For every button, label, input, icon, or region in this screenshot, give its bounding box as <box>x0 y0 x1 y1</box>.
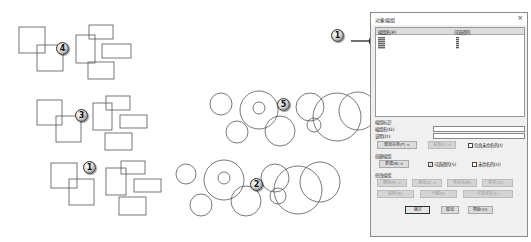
description-button[interactable]: 说明(D) <box>377 190 414 198</box>
callout-number-3: 3 <box>75 109 88 122</box>
selectable-label: 可选择的(S) <box>434 162 456 167</box>
close-icon[interactable]: × <box>517 14 523 22</box>
include-unnamed-checkbox[interactable]: 包含未命名的(I) <box>468 142 503 148</box>
group-name-entries[interactable] <box>378 37 385 49</box>
new-group-button[interactable]: 新建(N) < <box>379 160 409 168</box>
description-label: 说明(D): <box>375 133 392 139</box>
dialog-title: 对象编组 <box>375 16 395 23</box>
callout-number-5: 5 <box>277 98 290 111</box>
checkbox-checked[interactable]: ✓ <box>428 162 433 167</box>
group-name-field[interactable] <box>433 126 525 132</box>
description-field[interactable] <box>433 133 525 139</box>
selectable-toggle-button[interactable]: 可选择的(L) <box>463 190 513 198</box>
rename-button[interactable]: 重命名(M) <box>447 179 477 187</box>
section-create-group: 创建编组 <box>375 153 391 159</box>
object-grouping-dialog: 对象编组 × 编组名(P) 可选择的 编组标识 编组名(G): 说明(D): 查… <box>370 12 528 237</box>
checkbox-box[interactable] <box>472 162 477 167</box>
selectable-checkbox[interactable]: ✓可选择的(S) <box>428 161 456 167</box>
group-list[interactable]: 编组名(P) 可选择的 <box>375 27 525 117</box>
explode-button[interactable]: 分解(E) <box>420 190 457 198</box>
callout-number-1: 1 <box>83 161 96 174</box>
unnamed-checkbox[interactable]: 未命名的(U) <box>472 161 501 167</box>
column-group-name[interactable]: 编组名(P) <box>378 29 396 35</box>
dialog-titlebar: 对象编组 × <box>371 13 527 25</box>
column-selectable[interactable]: 可选择的 <box>454 29 470 35</box>
cancel-button[interactable]: 取消 <box>441 206 459 214</box>
reorder-button[interactable]: 重排(O)... <box>482 179 513 187</box>
add-button[interactable]: 添加(A) < <box>412 179 442 187</box>
section-group-identification: 编组标识 <box>375 119 391 125</box>
callout-number-2: 2 <box>250 178 263 191</box>
selectable-entries <box>456 37 459 49</box>
checkbox-box[interactable] <box>468 143 473 148</box>
group-name-label: 编组名(G): <box>375 126 396 132</box>
highlight-button[interactable]: 亮显(H) < <box>428 141 456 149</box>
callout-number-1: 1 <box>331 29 344 42</box>
unnamed-label: 未命名的(U) <box>478 162 501 167</box>
remove-button[interactable]: 删除(R) < <box>377 179 407 187</box>
include-unnamed-label: 包含未命名的(I) <box>474 143 503 148</box>
section-change-group: 修改编组 <box>375 172 391 178</box>
help-button[interactable]: 帮助(H) <box>468 206 493 214</box>
callout-number-4: 4 <box>56 42 69 55</box>
find-name-button[interactable]: 查找名称(F) < <box>377 141 417 149</box>
group-list-header: 编组名(P) 可选择的 <box>376 28 524 35</box>
ok-button[interactable]: 确定 <box>405 206 430 214</box>
